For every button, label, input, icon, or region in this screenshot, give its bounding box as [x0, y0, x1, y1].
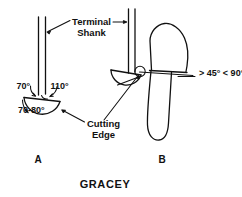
figure-title: GRACEY [80, 178, 131, 190]
cutting-edge-leader-left [63, 111, 85, 123]
terminal-shank-callout: Terminal Shank [47, 16, 127, 38]
angle-label-110: 110° [51, 81, 70, 91]
tooth-crown-outline [150, 23, 188, 71]
tooth-gumline [150, 71, 188, 73]
panel-a-angle-70-indicator [30, 86, 35, 96]
panel-b-group: > 45° < 90° B [111, 9, 242, 165]
tooth-root-outline [147, 71, 171, 140]
terminal-shank-label-line2: Shank [77, 27, 106, 38]
cutting-edge-label-line2: Edge [92, 129, 115, 140]
angle-label-tooth-range: > 45° < 90° [199, 68, 242, 78]
figure-canvas: 70° 110° 70-80° A Terminal Shank Cut [0, 0, 242, 197]
angle-label-70-80: 70-80° [18, 105, 45, 115]
panel-label-a: A [34, 154, 41, 165]
cutting-edge-arrow-left [62, 110, 66, 113]
panel-b-terminal-shank [129, 9, 136, 73]
cutting-edge-leader-right [104, 77, 138, 121]
terminal-shank-label-line1: Terminal [72, 16, 111, 27]
terminal-shank-leader-left [48, 21, 70, 32]
panel-a-group: 70° 110° 70-80° A [17, 17, 70, 165]
panel-label-b: B [158, 154, 165, 165]
cutting-edge-label-line1: Cutting [87, 118, 120, 129]
terminal-shank-arrow-left [47, 31, 51, 34]
gracey-curette-figure: 70° 110° 70-80° A Terminal Shank Cut [0, 0, 242, 197]
terminal-shank-arrow-right [123, 21, 127, 24]
panel-a-terminal-shank [39, 17, 46, 95]
angle-label-70: 70° [17, 81, 31, 91]
